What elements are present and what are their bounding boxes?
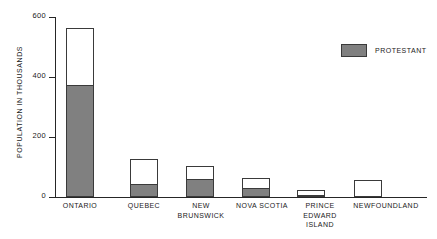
y-tick-label-200: 200	[33, 131, 46, 140]
y-tick-label-400: 400	[33, 71, 46, 80]
y-axis-line	[55, 17, 56, 198]
bar-group[interactable]	[242, 178, 270, 197]
bar-segment-protestant	[242, 188, 270, 197]
legend: PROTESTANT	[341, 44, 427, 57]
bar-group[interactable]	[186, 166, 214, 197]
bar-chart: POPULATION IN THOUSANDS 0200400600 ONTAR…	[0, 0, 437, 239]
bar-segment-protestant	[297, 195, 325, 197]
y-tick-label-0: 0	[42, 191, 46, 200]
bar-group[interactable]	[297, 190, 325, 198]
y-tick-400: 400	[49, 77, 55, 78]
legend-swatch-protestant	[341, 44, 367, 57]
x-axis-line	[55, 197, 427, 198]
bar-segment-protestant	[186, 179, 214, 197]
bar-segment-protestant	[66, 85, 94, 198]
bar-segment-total	[354, 180, 382, 197]
bar-group[interactable]	[354, 180, 382, 197]
y-axis-title: POPULATION IN THOUSANDS	[14, 12, 26, 192]
bar-group[interactable]	[130, 159, 158, 197]
bar-group[interactable]	[66, 28, 94, 197]
category-label: NEWFOUNDLAND	[336, 201, 436, 211]
legend-label-protestant: PROTESTANT	[375, 47, 427, 54]
y-tick-label-600: 600	[33, 11, 46, 20]
y-tick-0: 0	[49, 197, 55, 198]
bar-segment-protestant	[130, 184, 158, 197]
y-tick-600: 600	[49, 17, 55, 18]
y-tick-200: 200	[49, 137, 55, 138]
